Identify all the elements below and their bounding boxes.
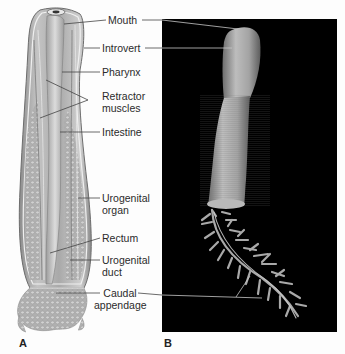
label-urogenital-duct: Urogenital duct <box>102 254 150 278</box>
label-mouth: Mouth <box>108 14 137 26</box>
panel-letter-a: A <box>19 337 27 349</box>
label-pharynx: Pharynx <box>102 66 141 78</box>
label-retractor-muscles: Retractor muscles <box>102 90 145 114</box>
label-intestine: Intestine <box>102 126 142 138</box>
panel-a-illustration <box>18 8 92 332</box>
panel-letter-b: B <box>164 337 172 349</box>
figure-graphics <box>0 0 345 354</box>
panel-b-photo <box>162 19 337 332</box>
label-introvert: Introvert <box>102 42 141 54</box>
label-urogenital-organ: Urogenital organ <box>102 192 150 216</box>
caudal-appendage-cluster <box>18 288 87 332</box>
label-caudal-appendage: Caudal appendage <box>94 287 146 311</box>
label-rectum: Rectum <box>102 232 138 244</box>
figure: Mouth Introvert Pharynx Retractor muscle… <box>0 0 345 354</box>
